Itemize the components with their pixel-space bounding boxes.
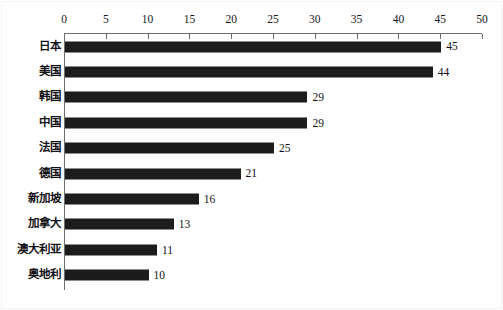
x-axis-tick-label: 20 <box>225 14 237 26</box>
bar-value-label: 11 <box>162 244 173 256</box>
bar <box>65 270 149 281</box>
bar-value-label: 25 <box>279 143 291 155</box>
category-label: 奥地利 <box>28 269 61 281</box>
category-label: 澳大利亚 <box>17 244 61 256</box>
category-label: 韩国 <box>39 92 61 104</box>
bar <box>65 143 274 154</box>
x-axis-tick-label: 0 <box>61 14 67 26</box>
bar-chart: 05101520253035404550 日本45美国44韩国29中国29法国2… <box>0 0 503 310</box>
bar-row: 德国21 <box>0 161 503 186</box>
bar-and-value: 29 <box>65 92 324 103</box>
x-axis-tick-label: 30 <box>309 14 321 26</box>
category-label: 美国 <box>39 66 61 78</box>
plot-area: 05101520253035404550 日本45美国44韩国29中国29法国2… <box>0 0 503 310</box>
x-axis-tick-label: 50 <box>476 14 488 26</box>
bar-and-value: 29 <box>65 117 324 128</box>
bar-rows: 日本45美国44韩国29中国29法国25德国21新加坡16加拿大13澳大利亚11… <box>0 34 503 288</box>
bar-row: 日本45 <box>0 34 503 59</box>
bar-value-label: 16 <box>204 193 216 205</box>
bar-value-label: 13 <box>179 219 191 231</box>
x-axis-tick-label: 40 <box>393 14 405 26</box>
bar-value-label: 10 <box>154 269 166 281</box>
bar-and-value: 13 <box>65 219 190 230</box>
bar <box>65 67 433 78</box>
bar-row: 法国25 <box>0 136 503 161</box>
x-axis-tick-label: 15 <box>184 14 196 26</box>
category-label: 日本 <box>39 41 61 53</box>
bar <box>65 244 157 255</box>
bar-value-label: 29 <box>312 92 324 104</box>
bar-row: 中国29 <box>0 110 503 135</box>
bar-and-value: 10 <box>65 270 165 281</box>
category-label: 中国 <box>39 117 61 129</box>
category-label: 新加坡 <box>28 193 61 205</box>
category-label: 法国 <box>39 143 61 155</box>
bar-value-label: 29 <box>312 117 324 129</box>
bar-row: 美国44 <box>0 59 503 84</box>
bar-row: 奥地利10 <box>0 263 503 288</box>
bar-and-value: 25 <box>65 143 291 154</box>
x-axis-tick-label: 10 <box>142 14 154 26</box>
bar <box>65 92 307 103</box>
bar-and-value: 11 <box>65 244 173 255</box>
x-axis-tick-label: 25 <box>267 14 279 26</box>
bar <box>65 168 241 179</box>
category-label: 加拿大 <box>28 219 61 231</box>
category-label: 德国 <box>39 168 61 180</box>
bar-value-label: 21 <box>246 168 258 180</box>
bar-and-value: 16 <box>65 194 215 205</box>
bar-row: 新加坡16 <box>0 186 503 211</box>
bar-and-value: 44 <box>65 67 449 78</box>
bar-and-value: 21 <box>65 168 257 179</box>
bar-row: 加拿大13 <box>0 212 503 237</box>
bar-value-label: 45 <box>446 41 458 53</box>
bar <box>65 194 199 205</box>
x-axis-tick-label: 35 <box>351 14 363 26</box>
x-axis-tick-label: 5 <box>103 14 109 26</box>
bar-row: 韩国29 <box>0 85 503 110</box>
bar <box>65 41 441 52</box>
bar <box>65 117 307 128</box>
bar <box>65 219 174 230</box>
bar-row: 澳大利亚11 <box>0 237 503 262</box>
bar-value-label: 44 <box>438 66 450 78</box>
x-axis-tick-label: 45 <box>434 14 446 26</box>
bar-and-value: 45 <box>65 41 458 52</box>
